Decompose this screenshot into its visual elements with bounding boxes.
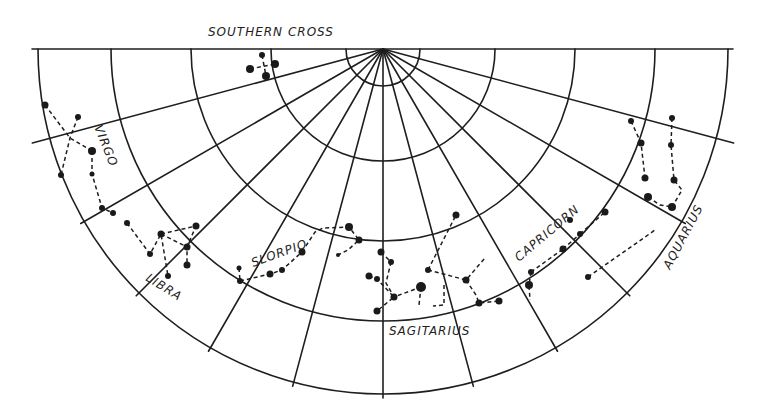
constellation-sagittarius xyxy=(366,212,503,315)
star-icon xyxy=(110,210,116,216)
constellation-line xyxy=(531,249,563,272)
hour-spoke xyxy=(383,49,630,296)
star-icon xyxy=(336,253,340,257)
star-icon xyxy=(374,276,380,282)
constellation-line xyxy=(428,215,456,270)
constellation-line xyxy=(61,117,78,175)
star-icon xyxy=(42,102,49,109)
constellation-line xyxy=(428,258,485,280)
star-icon xyxy=(642,175,649,182)
star-icon xyxy=(525,281,533,289)
star-icon xyxy=(388,259,394,265)
label-virgo: VIRGO xyxy=(91,123,120,169)
star-icon xyxy=(184,262,191,269)
star-icon xyxy=(237,266,242,271)
star-icon xyxy=(463,277,470,284)
constellation-line xyxy=(161,226,196,265)
star-icon xyxy=(560,246,567,253)
star-icon xyxy=(345,223,353,231)
star-icon xyxy=(644,193,652,201)
star-icon xyxy=(246,65,254,73)
constellation-capricorn xyxy=(525,209,655,301)
star-icon xyxy=(259,52,265,58)
label-sagittarius: SAGITARIUS xyxy=(389,324,470,338)
star-icon xyxy=(90,172,95,177)
star-icon xyxy=(628,118,634,124)
star-icon xyxy=(184,244,191,251)
star-icon xyxy=(237,278,243,284)
label-capricorn: CAPRICORN xyxy=(512,202,582,264)
star-icon xyxy=(165,273,171,279)
star-icon xyxy=(124,220,130,226)
hour-spoke xyxy=(293,49,383,386)
constellations xyxy=(42,52,683,315)
label-southern-cross: SOUTHERN CROSS xyxy=(208,25,334,39)
star-icon xyxy=(99,205,105,211)
star-icon xyxy=(638,140,645,147)
star-icon xyxy=(147,251,153,257)
star-icon xyxy=(88,147,96,155)
star-icon xyxy=(668,203,676,211)
constellation-line xyxy=(369,276,394,311)
star-icon xyxy=(577,231,583,237)
star-icon xyxy=(267,271,274,278)
star-icon xyxy=(158,231,165,238)
star-icon xyxy=(669,115,675,121)
constellation-line xyxy=(580,212,605,234)
star-icon xyxy=(668,142,674,148)
constellation-line xyxy=(671,118,682,207)
star-icon xyxy=(602,209,609,216)
star-icon xyxy=(391,294,398,301)
star-icon xyxy=(528,269,534,275)
star-icon xyxy=(378,249,385,256)
star-icon xyxy=(75,114,81,120)
star-icon xyxy=(193,223,200,230)
star-icon xyxy=(453,212,460,219)
star-icon xyxy=(279,267,285,273)
star-icon xyxy=(374,308,381,315)
constellation-line xyxy=(302,227,359,255)
constellation-aquarius xyxy=(628,115,682,211)
star-icon xyxy=(416,282,426,292)
star-icon xyxy=(476,300,483,307)
star-icon xyxy=(58,172,64,178)
constellation-line xyxy=(588,230,655,277)
constellation-line xyxy=(466,280,499,303)
constellation-line xyxy=(433,285,444,306)
celestial-grid xyxy=(32,49,734,398)
star-icon xyxy=(366,273,373,280)
star-icon xyxy=(585,274,591,280)
label-libra: LIBRA xyxy=(143,271,184,304)
star-icon xyxy=(356,237,363,244)
constellation-line xyxy=(161,234,187,247)
star-icon xyxy=(496,298,503,305)
star-icon xyxy=(271,60,279,68)
star-icon xyxy=(671,177,678,184)
star-icon xyxy=(262,72,270,80)
star-chart: SOUTHERN CROSS VIRGO LIBRA SLORPIO SAGIT… xyxy=(0,0,758,414)
star-icon xyxy=(425,267,431,273)
